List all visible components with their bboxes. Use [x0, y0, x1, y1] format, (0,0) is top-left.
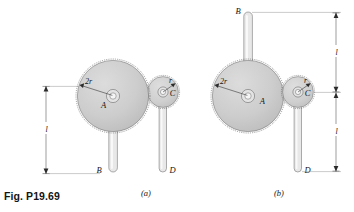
rod-end-label-b-a: B — [97, 165, 102, 175]
panel-tag-a: (a) — [141, 188, 151, 198]
big-gear-center-label-a: A — [100, 100, 107, 110]
figure-canvas: l r C — [0, 0, 354, 212]
rod-end-label-d-b: D — [303, 165, 311, 175]
figure-caption: Fig. P19.69 — [4, 190, 60, 202]
big-gear-center-label-b: A — [259, 96, 266, 106]
big-gear-bore-a — [110, 93, 116, 99]
big-gear-bore-b — [245, 93, 251, 99]
panel-tag-b: (b) — [274, 188, 284, 198]
rod-end-label-d-a: D — [168, 165, 176, 175]
big-gear-radius-label-a: 2r — [85, 77, 93, 86]
big-gear-radius-label-b: 2r — [220, 77, 228, 86]
figure-p19-69: l r C — [0, 0, 354, 212]
small-gear-center-label-a: C — [170, 88, 176, 98]
small-gear-center-label-b: C — [305, 88, 311, 98]
rod-end-label-b-b: B — [235, 6, 240, 16]
